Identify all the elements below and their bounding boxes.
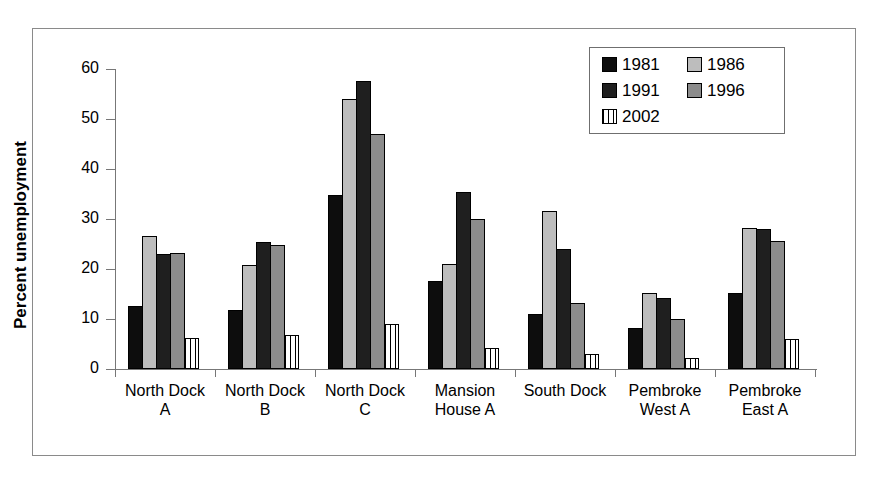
legend-label-1981: 1981 [622,56,660,73]
y-tick-20 [106,269,115,270]
legend-item-2002[interactable]: 2002 [602,108,695,125]
bar-1991-6[interactable] [756,229,771,369]
y-tick-label-text: 50 [53,110,99,126]
bar-2002-1[interactable] [284,335,299,370]
y-tick-label-text: 10 [53,310,99,326]
bar-1991-5[interactable] [656,298,671,370]
bar-group-0 [128,69,199,369]
y-tick-label-text: 60 [53,60,99,76]
bar-group-1 [228,69,299,369]
category-label-6: PembrokeEast A [715,381,815,419]
bar-1996-4[interactable] [570,303,585,370]
bar-1981-2[interactable] [328,195,343,370]
bar-1991-2[interactable] [356,81,371,370]
bar-1986-2[interactable] [342,99,357,369]
bar-2002-2[interactable] [384,324,399,370]
category-label-line-1: East A [715,400,815,419]
bar-group-2 [328,69,399,369]
category-label-3: MansionHouse A [415,381,515,419]
legend-row: 1991 1996 [602,82,772,99]
y-tick-label-text: 0 [53,360,99,376]
bar-1981-6[interactable] [728,293,743,369]
value-axis-line [115,69,116,369]
y-tick-40 [106,169,115,170]
bar-1991-0[interactable] [156,254,171,369]
bar-group-4 [528,69,599,369]
category-label-line-0: North Dock [215,381,315,400]
chart-legend: 1981 1986 1991 1996 [589,47,785,134]
y-tick-label-text: 20 [53,260,99,276]
x-tick-5 [615,370,616,377]
bar-1981-4[interactable] [528,314,543,369]
legend-swatch-1986-icon [687,57,702,72]
legend-item-1996[interactable]: 1996 [687,82,772,99]
y-tick-60 [106,69,115,70]
y-tick-label-40: 40 [49,160,99,176]
category-label-line-0: North Dock [315,381,415,400]
bar-1996-3[interactable] [470,219,485,369]
bar-1981-1[interactable] [228,310,243,369]
bar-1996-2[interactable] [370,134,385,369]
y-tick-label-30: 30 [49,210,99,226]
y-axis-title: Percent unemployment [11,105,31,365]
x-tick-1 [215,370,216,377]
y-tick-label-text: 40 [53,160,99,176]
bar-1981-0[interactable] [128,306,143,369]
category-label-line-1: C [315,400,415,419]
bar-2002-4[interactable] [584,354,599,370]
bar-1981-3[interactable] [428,281,443,370]
bar-1986-4[interactable] [542,211,557,370]
bar-1986-6[interactable] [742,228,757,370]
legend-item-1991[interactable]: 1991 [602,82,687,99]
legend-label-1991: 1991 [622,82,660,99]
legend-item-1981[interactable]: 1981 [602,56,687,73]
x-tick-4 [515,370,516,377]
figure-frame: Percent unemployment 6050403020100 North… [32,28,856,456]
bar-1991-4[interactable] [556,249,571,369]
y-tick-label-0: 0 [49,360,99,376]
category-label-line-0: Pembroke [615,381,715,400]
x-tick-2 [315,370,316,377]
category-label-line-1: B [215,400,315,419]
bar-1996-1[interactable] [270,245,285,369]
legend-swatch-1991-icon [602,83,617,98]
category-label-1: North DockB [215,381,315,419]
category-label-line-0: North Dock [115,381,215,400]
bar-1986-3[interactable] [442,264,457,369]
y-tick-label-10: 10 [49,310,99,326]
x-tick-0 [115,370,116,377]
legend-swatch-1981-icon [602,57,617,72]
bar-1986-1[interactable] [242,265,257,370]
x-tick-end [815,370,816,377]
bar-2002-0[interactable] [184,338,199,369]
category-label-line-1: A [115,400,215,419]
bar-1981-5[interactable] [628,328,643,370]
bar-2002-3[interactable] [484,348,499,370]
legend-swatch-2002-icon [602,109,617,124]
bar-1991-3[interactable] [456,192,471,370]
legend-row: 1981 1986 [602,56,772,73]
bar-2002-5[interactable] [684,358,699,370]
category-label-line-0: South Dock [515,381,615,400]
y-tick-30 [106,219,115,220]
bar-1996-5[interactable] [670,319,685,369]
y-tick-label-20: 20 [49,260,99,276]
y-tick-label-50: 50 [49,110,99,126]
bar-2002-6[interactable] [784,339,799,369]
category-axis-line [115,369,817,370]
bar-1986-0[interactable] [142,236,157,369]
category-label-line-1: West A [615,400,715,419]
legend-label-2002: 2002 [622,108,660,125]
legend-label-1996: 1996 [707,82,745,99]
bar-1986-5[interactable] [642,293,657,370]
legend-label-1986: 1986 [707,56,745,73]
bar-1991-1[interactable] [256,242,271,370]
y-tick-10 [106,319,115,320]
legend-item-1986[interactable]: 1986 [687,56,772,73]
x-tick-6 [715,370,716,377]
bar-1996-6[interactable] [770,241,785,370]
bar-group-3 [428,69,499,369]
bar-1996-0[interactable] [170,253,185,370]
category-label-2: North DockC [315,381,415,419]
y-tick-label-text: 30 [53,210,99,226]
